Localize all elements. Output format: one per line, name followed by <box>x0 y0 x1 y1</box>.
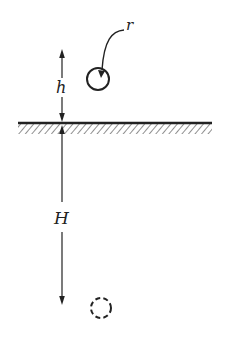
arrowhead-down-icon <box>59 113 65 122</box>
radius-label: r <box>126 16 134 34</box>
ground-surface <box>18 123 212 134</box>
arrowhead-up-icon <box>59 49 65 58</box>
radius-leader <box>102 30 124 70</box>
depth-label: H <box>53 208 70 228</box>
radius-arrowhead-icon <box>98 70 105 78</box>
arrowhead-down-icon <box>59 296 65 305</box>
height-label: h <box>56 78 66 97</box>
image-sphere-circle <box>91 298 111 318</box>
sphere-circle <box>87 68 109 90</box>
ground-hatching <box>18 124 212 134</box>
diagram-canvas: h H r <box>0 0 233 338</box>
